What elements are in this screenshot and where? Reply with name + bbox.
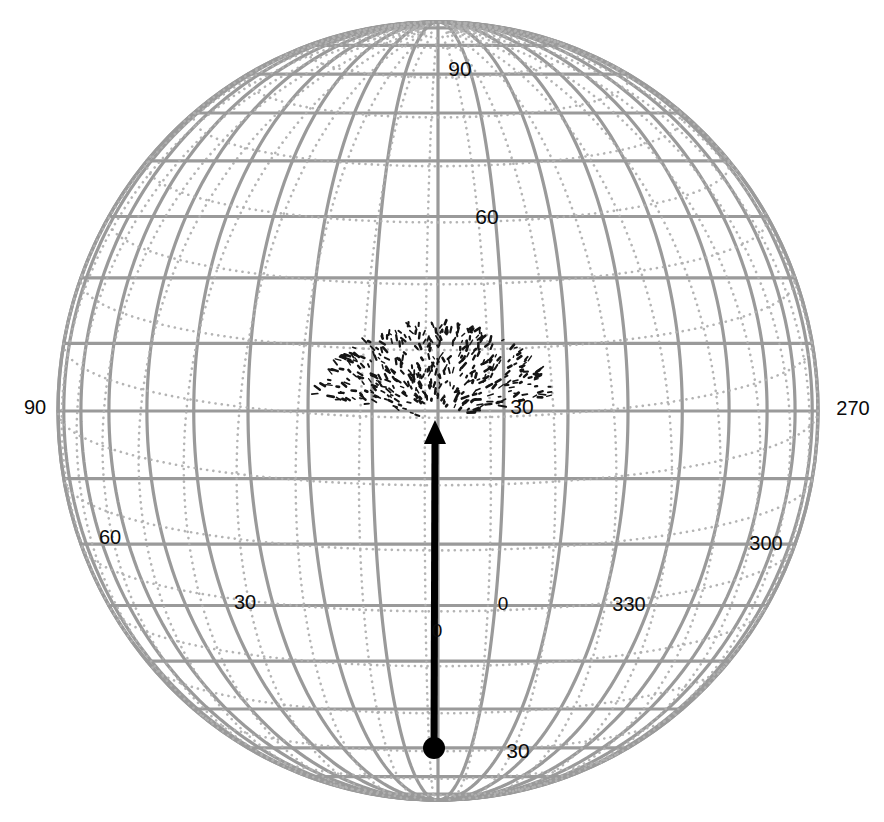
globe-figure: 9060300309027060300303300: [0, 0, 884, 822]
longitude-label-270-1: 270: [836, 398, 869, 418]
latitude-label-30-2: 30: [510, 396, 533, 417]
latitude-label-60-1: 60: [475, 206, 498, 227]
origin-label-0: 0: [432, 621, 443, 640]
longitude-label-330-5: 330: [612, 594, 645, 614]
globe-projection-canvas: [0, 0, 884, 822]
latitude-label-30-4: 30: [506, 740, 529, 761]
longitude-label-30-4: 30: [234, 592, 256, 612]
longitude-label-300-3: 300: [749, 533, 782, 553]
latitude-label-90-0: 90: [448, 58, 471, 79]
longitude-label-60-2: 60: [99, 527, 121, 547]
latitude-label-0-3: 0: [498, 594, 509, 613]
longitude-label-90-0: 90: [24, 397, 46, 417]
